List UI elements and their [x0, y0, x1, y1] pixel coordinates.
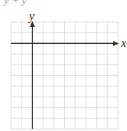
y-axis-label: y [29, 10, 34, 22]
coordinate-grid [0, 0, 127, 131]
x-axis-label: x [121, 37, 126, 49]
grid-lines [11, 22, 118, 129]
